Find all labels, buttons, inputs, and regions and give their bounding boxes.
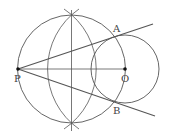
- geometry-diagram: P O A B: [0, 0, 172, 140]
- label-P: P: [14, 73, 21, 84]
- label-A: A: [112, 23, 121, 34]
- point-P: [16, 67, 20, 71]
- label-B: B: [113, 105, 120, 116]
- label-O: O: [121, 73, 129, 84]
- point-O: [123, 67, 127, 71]
- tangent-line-PB: [18, 69, 155, 116]
